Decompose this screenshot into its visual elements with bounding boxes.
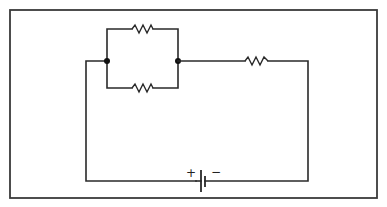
junction-node-left xyxy=(104,58,110,64)
wire-top-branch-right xyxy=(153,29,178,61)
wire-series-resistor-to-battery-negative xyxy=(205,61,308,181)
resistor-r1 xyxy=(132,25,153,33)
wire-bottom-branch-left xyxy=(107,61,132,88)
battery-negative-label: − xyxy=(211,165,221,179)
circuit-diagram: + − xyxy=(0,0,387,207)
wire-battery-positive-to-left-node xyxy=(86,61,196,181)
wire-bottom-branch-right xyxy=(153,61,178,88)
battery-positive-label: + xyxy=(186,166,196,180)
resistor-r3 xyxy=(245,57,268,65)
wire-top-branch-left xyxy=(107,29,132,61)
resistor-r2 xyxy=(132,84,153,92)
